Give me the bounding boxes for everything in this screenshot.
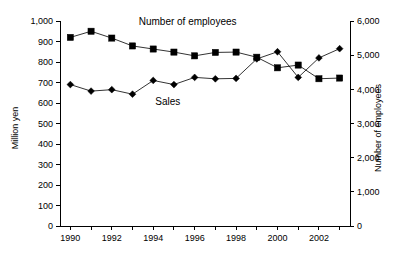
chart-figure: 01002003004005006007008009001,000 01,000…	[0, 0, 396, 258]
data-point	[212, 49, 218, 55]
left-tick-label: 400	[38, 139, 53, 149]
left-axis-title: Million yen	[10, 107, 20, 150]
x-tick-label: 1998	[226, 233, 246, 243]
left-tick-label: 100	[38, 201, 53, 211]
left-tick-label: 200	[38, 180, 53, 190]
data-point	[129, 43, 135, 49]
left-tick-label: 700	[38, 78, 53, 88]
right-tick-label: 6,000	[357, 16, 380, 26]
left-tick-label: 900	[38, 37, 53, 47]
series-label-number-of-employees: Number of employees	[139, 16, 237, 27]
right-axis-title: Number of employees	[373, 83, 383, 172]
left-tick-label: 1,000	[30, 16, 53, 26]
data-point	[109, 35, 115, 41]
data-point	[254, 54, 260, 60]
x-tick-label: 2002	[309, 233, 329, 243]
left-tick-label: 0	[48, 221, 53, 231]
dual-axis-line-chart: 01002003004005006007008009001,000 01,000…	[0, 0, 396, 258]
plot-background	[0, 0, 396, 258]
x-tick-label: 1990	[60, 233, 80, 243]
data-point	[233, 49, 239, 55]
left-tick-label: 300	[38, 160, 53, 170]
data-point	[337, 75, 343, 81]
right-tick-label: 1,000	[357, 187, 380, 197]
data-point	[274, 65, 280, 71]
x-tick-label: 1994	[143, 233, 163, 243]
data-point	[150, 46, 156, 52]
data-point	[88, 28, 94, 34]
left-tick-label: 600	[38, 98, 53, 108]
data-point	[295, 62, 301, 68]
data-point	[67, 34, 73, 40]
series-label-sales: Sales	[155, 96, 180, 107]
x-tick-label: 1996	[185, 233, 205, 243]
data-point	[316, 76, 322, 82]
data-point	[192, 53, 198, 59]
x-tick-label: 2000	[267, 233, 287, 243]
x-tick-label: 1992	[102, 233, 122, 243]
right-tick-label: 5,000	[357, 50, 380, 60]
left-tick-label: 800	[38, 57, 53, 67]
left-tick-label: 500	[38, 119, 53, 129]
right-tick-label: 0	[357, 221, 362, 231]
data-point	[171, 49, 177, 55]
